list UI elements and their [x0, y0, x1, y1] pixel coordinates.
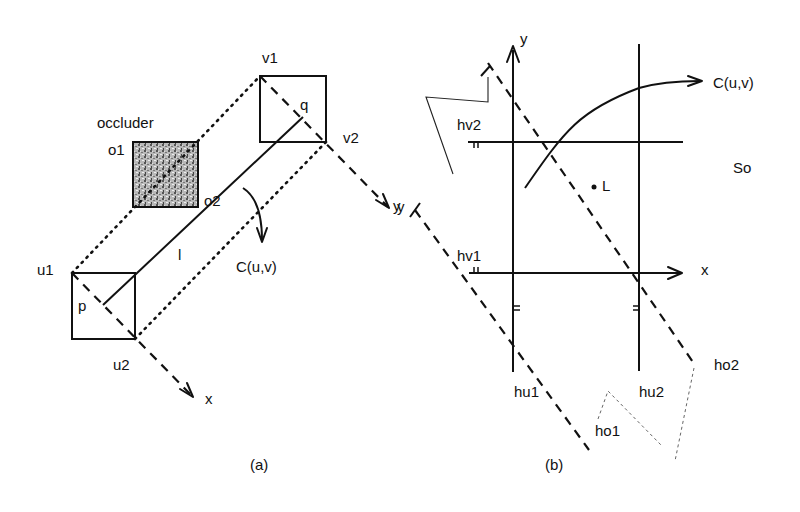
- panel-a: occluder o1 o2 v1 v2 q u1 u2 p l C(u,v) …: [37, 49, 401, 473]
- label-hv2: hv2: [457, 116, 481, 133]
- diagram-figure: occluder o1 o2 v1 v2 q u1 u2 p l C(u,v) …: [0, 0, 800, 512]
- label-u1: u1: [37, 261, 54, 278]
- label-hu2: hu2: [639, 383, 664, 400]
- dashed-strip-upper: [488, 63, 695, 365]
- ho2-outline: [675, 368, 694, 461]
- label-q: q: [300, 96, 308, 113]
- panel-b: y x C(u,v) hv2 hv1 hu1 hu2 ho1 ho2 So L …: [397, 30, 754, 473]
- caption-a: (a): [250, 456, 268, 473]
- label-x-a: x: [205, 390, 213, 407]
- dashed-strip-lower: [415, 210, 589, 450]
- curve-b: [525, 81, 700, 188]
- label-occluder: occluder: [97, 114, 154, 131]
- label-hu1: hu1: [514, 383, 539, 400]
- label-hv1: hv1: [457, 247, 481, 264]
- label-l: l: [178, 246, 181, 263]
- tick-marks: [474, 143, 638, 310]
- upper-strip-tick: [481, 66, 490, 76]
- label-ho1: ho1: [595, 422, 620, 439]
- label-y-b: y: [520, 30, 528, 47]
- label-p: p: [78, 297, 86, 314]
- label-u2: u2: [113, 356, 130, 373]
- label-v2: v2: [343, 129, 359, 146]
- label-x-b: x: [701, 261, 709, 278]
- label-point-l: L: [602, 177, 610, 194]
- x-axis-dashed: [72, 273, 192, 396]
- label-curve-a: C(u,v): [236, 258, 277, 275]
- caption-b: (b): [545, 456, 563, 473]
- label-o1: o1: [108, 141, 125, 158]
- label-curve-b: C(u,v): [713, 74, 754, 91]
- v-square: [260, 76, 326, 142]
- label-o2: o2: [204, 192, 221, 209]
- label-ho2: ho2: [714, 356, 739, 373]
- point-l: [592, 185, 597, 190]
- label-v1: v1: [262, 49, 278, 66]
- label-skew-y: y: [397, 198, 405, 215]
- label-so: So: [733, 159, 751, 176]
